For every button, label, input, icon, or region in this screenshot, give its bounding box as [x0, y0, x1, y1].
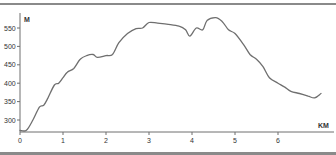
x-axis-unit-label: KM [318, 122, 329, 129]
elevation-line [20, 18, 321, 131]
y-tick-label: 350 [4, 98, 16, 105]
y-tick-label: 300 [4, 117, 16, 124]
y-tick-label: 450 [4, 61, 16, 68]
y-tick-label: 400 [4, 80, 16, 87]
x-axis-ticks: 0123456 [18, 132, 280, 144]
y-axis-unit-label: M [24, 16, 30, 23]
y-tick-label: 550 [4, 25, 16, 32]
elevation-chart: 300350400450500550 0123456 M KM [0, 0, 336, 155]
x-tick-label: 6 [276, 137, 280, 144]
x-tick-label: 2 [104, 137, 108, 144]
y-tick-label: 500 [4, 43, 16, 50]
x-tick-label: 1 [61, 137, 65, 144]
x-tick-label: 3 [147, 137, 151, 144]
y-axis-ticks: 300350400450500550 [4, 25, 20, 124]
x-tick-label: 5 [233, 137, 237, 144]
x-tick-label: 4 [190, 137, 194, 144]
bottom-border-rule [0, 152, 336, 155]
x-tick-label: 0 [18, 137, 22, 144]
